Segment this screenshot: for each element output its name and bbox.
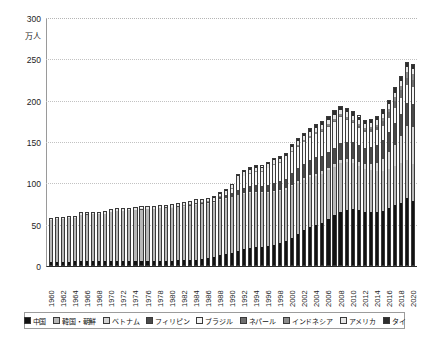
bar-segment-韓国・朝鮮 <box>382 171 384 211</box>
stacked-bar <box>248 167 252 266</box>
bar-segment-中国 <box>364 212 366 265</box>
bar-segment-韓国・朝鮮 <box>201 204 203 259</box>
bar-segment-韓国・朝鮮 <box>189 206 191 260</box>
bar-segment-中国 <box>406 198 408 265</box>
bar-segment-ブラジル <box>267 168 269 184</box>
bar-segment-中国 <box>297 234 299 265</box>
bar-segment-韓国・朝鮮 <box>285 190 287 242</box>
y-tick-label-200: 200 <box>27 98 41 106</box>
bar-segment-韓国・朝鮮 <box>388 169 390 209</box>
bar-segment-中国 <box>110 261 112 265</box>
bar-segment-ブラジル <box>406 85 408 102</box>
bar-segment-ブラジル <box>291 152 293 173</box>
legend-label: 中国 <box>33 316 47 326</box>
bar-segment-韓国・朝鮮 <box>352 163 354 209</box>
bar-segment-中国 <box>128 261 130 265</box>
bar-segment-フィリピン <box>333 148 335 165</box>
bar-segment-中国 <box>189 260 191 265</box>
bar-segment-ブラジル <box>376 130 378 144</box>
stacked-bar <box>103 211 107 266</box>
bar-segment-中国 <box>309 227 311 265</box>
legend-item-タイ[interactable]: タイ <box>383 316 406 326</box>
stacked-bar <box>127 208 131 266</box>
bar-segment-ブラジル <box>255 172 257 185</box>
legend-item-フィリピン[interactable]: フィリピン <box>146 316 189 326</box>
bar-segment-フィリピン <box>364 148 366 165</box>
bar-series-container <box>47 19 417 266</box>
bar-segment-中国 <box>339 212 341 265</box>
bar-segment-韓国・朝鮮 <box>159 208 161 261</box>
bar-segment-ネパール <box>412 80 414 88</box>
bar-segment-フィリピン <box>297 168 299 181</box>
stacked-bar <box>182 202 186 266</box>
legend-item-ネパール[interactable]: ネパール <box>240 316 276 326</box>
bar-segment-中国 <box>388 208 390 265</box>
bar-segment-韓国・朝鮮 <box>267 193 269 246</box>
bar-segment-韓国・朝鮮 <box>165 208 167 261</box>
bar-segment-中国 <box>376 212 378 265</box>
legend-item-ベトナム[interactable]: ベトナム <box>103 316 139 326</box>
y-tick-label-300: 300 <box>27 15 41 23</box>
bar-segment-フィリピン <box>352 142 354 159</box>
x-axis: 1960196219641966196819701972197419761978… <box>47 269 417 309</box>
bar-segment-韓国・朝鮮 <box>50 220 52 262</box>
bar-segment-フィリピン <box>346 142 348 159</box>
bar-segment-中国 <box>165 261 167 265</box>
legend-swatch-icon <box>103 317 110 324</box>
legend-swatch-icon <box>196 317 203 324</box>
bar-segment-フィリピン <box>267 185 269 192</box>
bar-segment-フィリピン <box>327 152 329 168</box>
bar-segment-韓国・朝鮮 <box>146 209 148 261</box>
x-tick-label-2020: 2020 <box>409 290 417 307</box>
legend-item-アメリカ[interactable]: アメリカ <box>340 316 376 326</box>
bar-segment-韓国・朝鮮 <box>86 215 88 262</box>
stacked-bar <box>387 100 391 266</box>
bar-segment-フィリピン <box>370 147 372 164</box>
bar-segment-韓国・朝鮮 <box>140 210 142 262</box>
legend-item-中国[interactable]: 中国 <box>24 316 47 326</box>
bar-segment-韓国・朝鮮 <box>333 167 335 215</box>
bar-segment-ブラジル <box>382 126 384 140</box>
bar-segment-ベトナム <box>406 126 408 160</box>
legend-item-インドネシア[interactable]: インドネシア <box>283 316 333 326</box>
bar-segment-中国 <box>237 251 239 265</box>
bar-segment-フィリピン <box>358 145 360 162</box>
stacked-bar <box>357 115 361 266</box>
stacked-bar <box>381 109 385 266</box>
bar-segment-ネパール <box>400 90 402 97</box>
bar-segment-フィリピン <box>303 164 305 178</box>
bar-segment-フィリピン <box>388 132 390 152</box>
stacked-bar <box>308 128 312 266</box>
bar-segment-韓国・朝鮮 <box>183 207 185 261</box>
bar-segment-中国 <box>116 261 118 265</box>
bar-segment-韓国・朝鮮 <box>68 218 70 261</box>
bar-segment-韓国・朝鮮 <box>376 171 378 212</box>
bar-segment-中国 <box>171 261 173 265</box>
bar-segment-ブラジル <box>333 122 335 148</box>
stacked-bar <box>230 184 234 266</box>
legend-swatch-icon <box>53 317 60 324</box>
bar-segment-韓国・朝鮮 <box>225 199 227 254</box>
stacked-bar <box>399 76 403 266</box>
bar-segment-ブラジル <box>358 128 360 145</box>
legend-item-韓国・朝鮮[interactable]: 韓国・朝鮮 <box>53 316 96 326</box>
bar-segment-韓国・朝鮮 <box>110 212 112 261</box>
legend-label: ブラジル <box>205 316 232 326</box>
bar-segment-韓国・朝鮮 <box>56 219 58 261</box>
bar-segment-韓国・朝鮮 <box>261 193 263 247</box>
bar-segment-韓国・朝鮮 <box>315 176 317 225</box>
stacked-bar <box>375 116 379 266</box>
bar-segment-ベトナム <box>382 159 384 171</box>
bar-segment-ブラジル <box>297 147 299 169</box>
bar-segment-ブラジル <box>327 127 329 153</box>
bar-segment-中国 <box>285 241 287 265</box>
bar-segment-フィリピン <box>382 140 384 159</box>
bar-segment-フィリピン <box>339 143 341 160</box>
bar-segment-中国 <box>315 225 317 265</box>
stacked-bar <box>236 174 240 266</box>
legend-label: フィリピン <box>155 316 189 326</box>
legend-item-ブラジル[interactable]: ブラジル <box>196 316 232 326</box>
stacked-bar <box>97 212 101 266</box>
bar-segment-韓国・朝鮮 <box>249 193 251 248</box>
bar-segment-ブラジル <box>285 160 287 178</box>
